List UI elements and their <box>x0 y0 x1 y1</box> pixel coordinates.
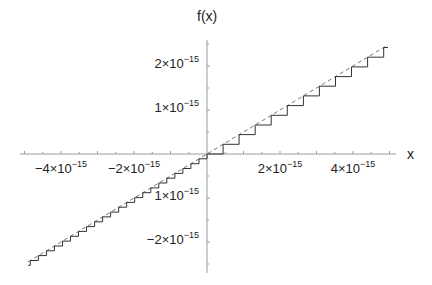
y-axis-title: f(x) <box>197 8 217 24</box>
y-tick-label: −2×10−15 <box>147 231 199 247</box>
exact-dashed-line <box>28 45 388 262</box>
staircase-line <box>28 48 388 266</box>
y-tick-label: 2×10−15 <box>154 55 199 71</box>
x-tick-label: 4×10−15 <box>331 160 376 176</box>
plot-area <box>0 0 432 285</box>
x-tick-label: −2×10−15 <box>108 160 160 176</box>
x-axis-title: x <box>407 146 414 162</box>
series <box>28 45 388 265</box>
axes <box>20 40 396 273</box>
x-tick-label: −4×10−15 <box>35 160 87 176</box>
y-tick-label: 1×10−15 <box>154 187 199 203</box>
y-tick-label: 1×10−15 <box>154 99 199 115</box>
x-tick-label: 2×10−15 <box>258 160 303 176</box>
